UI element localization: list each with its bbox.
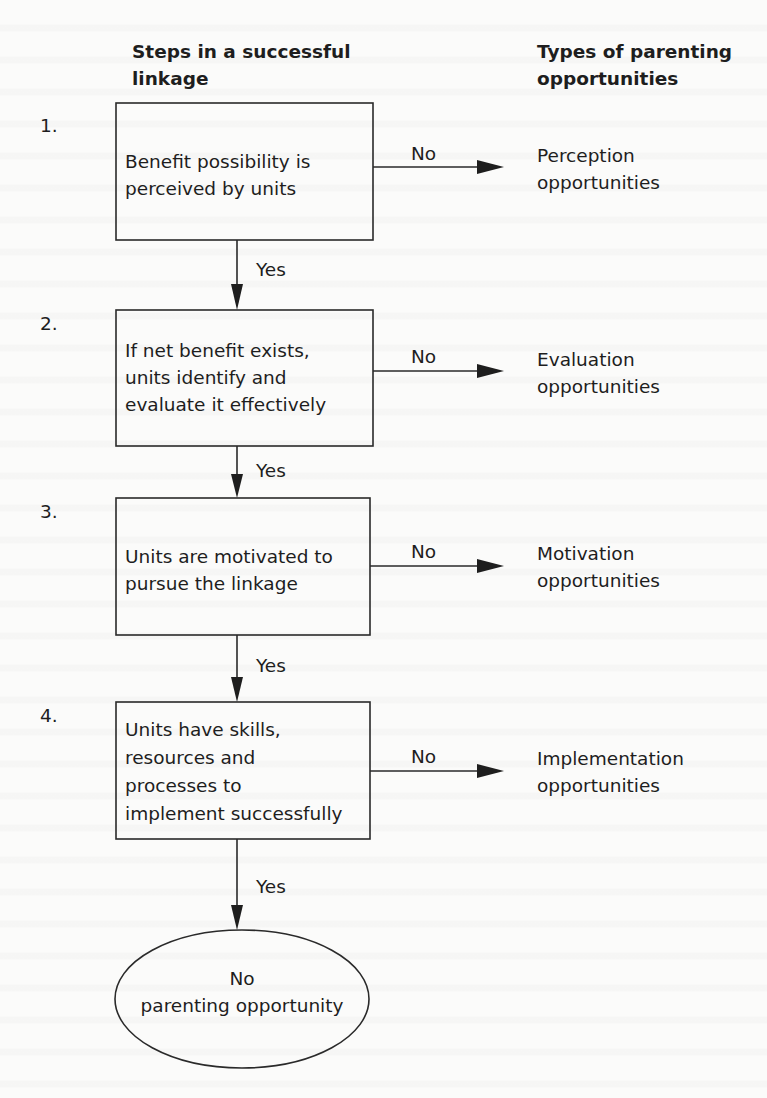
arrow-down-icon [231,284,243,310]
step-number: 1. [40,115,58,136]
step-text-line: evaluate it effectively [125,394,326,415]
left-header-line-2: linkage [132,68,208,89]
yes-label: Yes [255,655,286,676]
outcome-line: Evaluation [537,349,635,370]
outcome-line: opportunities [537,172,660,193]
outcome-line: opportunities [537,775,660,796]
step-4: 4. Units have skills, resources and proc… [40,702,684,930]
linkage-flowchart: Steps in a successful linkage Types of p… [0,0,767,1098]
terminal-text-line: parenting opportunity [141,995,344,1016]
right-header-line-1: Types of parenting [537,41,732,62]
step-text-line: Units are motivated to [125,546,333,567]
left-column-header: Steps in a successful linkage [132,41,351,89]
step-text-line: Benefit possibility is [125,151,310,172]
arrow-right-icon [477,764,504,778]
yes-label: Yes [255,259,286,280]
step-3: 3. Units are motivated to pursue the lin… [40,498,660,702]
step-number: 2. [40,313,58,334]
arrow-down-icon [231,677,243,702]
step-text-line: perceived by units [125,178,296,199]
no-label: No [411,746,436,767]
step-text-line: processes to [125,775,242,796]
step-text-line: Units have skills, [125,719,281,740]
outcome-line: opportunities [537,376,660,397]
no-label: No [411,541,436,562]
outcome-line: opportunities [537,570,660,591]
outcome-line: Implementation [537,748,684,769]
outcome-line: Perception [537,145,635,166]
right-header-line-2: opportunities [537,68,678,89]
step-text-line: pursue the linkage [125,573,298,594]
step-number: 4. [40,705,58,726]
yes-label: Yes [255,876,286,897]
step-number: 3. [40,501,58,522]
step-text-line: If net benefit exists, [125,340,310,361]
step-text-line: units identify and [125,367,287,388]
arrow-down-icon [231,474,243,498]
arrow-right-icon [477,160,504,174]
no-label: No [411,143,436,164]
left-header-line-1: Steps in a successful [132,41,351,62]
right-column-header: Types of parenting opportunities [537,41,732,89]
arrow-down-icon [231,905,243,930]
terminal-text-line: No [229,968,254,989]
no-label: No [411,346,436,367]
step-text-line: resources and [125,747,255,768]
arrow-right-icon [477,559,504,573]
yes-label: Yes [255,460,286,481]
step-2: 2. If net benefit exists, units identify… [40,310,660,498]
terminal-outcome: No parenting opportunity [115,930,369,1068]
step-1: 1. Benefit possibility is perceived by u… [40,103,660,310]
outcome-line: Motivation [537,543,634,564]
step-text-line: implement successfully [125,803,343,824]
arrow-right-icon [477,364,504,378]
